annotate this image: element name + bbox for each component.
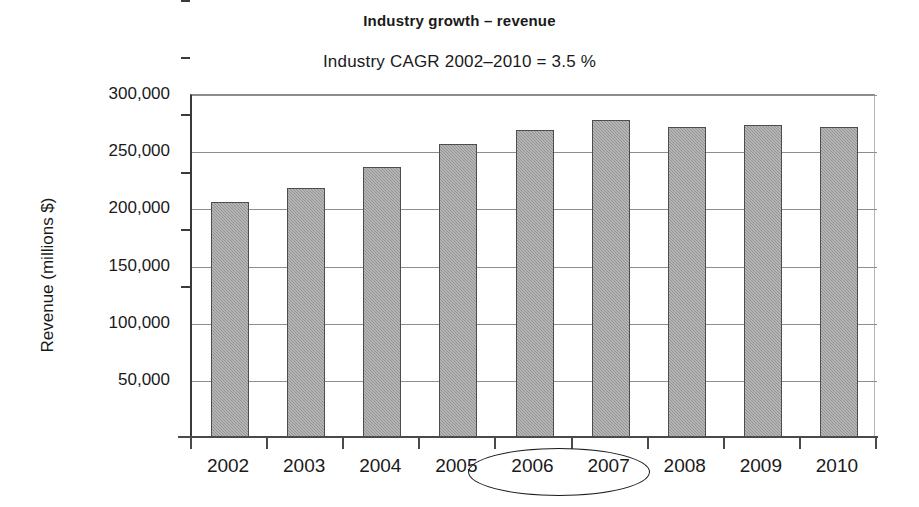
y-axis-label: 250,000 <box>50 142 170 159</box>
x-axis-tick <box>571 437 573 449</box>
chart-subtitle: Industry CAGR 2002–2010 = 3.5 % <box>0 52 919 72</box>
bar-2010 <box>820 127 858 438</box>
x-axis-tick <box>647 437 649 449</box>
y-axis-tick <box>181 172 190 174</box>
y-axis-label: 300,000 <box>50 85 170 102</box>
bar-2002 <box>211 202 249 438</box>
y-axis-label: 100,000 <box>50 314 170 331</box>
y-axis-label: 200,000 <box>50 199 170 216</box>
x-axis-tick <box>799 437 801 449</box>
highlight-ellipse-annotation <box>468 448 650 496</box>
y-axis-label: 50,000 <box>50 371 170 388</box>
bar-2006 <box>516 130 554 438</box>
gridline <box>192 95 877 96</box>
chart-title: Industry growth – revenue <box>0 12 919 29</box>
bar-2003 <box>287 188 325 438</box>
y-axis-tick <box>181 286 190 288</box>
bar-2008 <box>668 127 706 438</box>
x-axis-tick <box>723 437 725 449</box>
x-axis-tick <box>418 437 420 449</box>
chart-figure: Industry growth – revenue Industry CAGR … <box>0 0 919 507</box>
plot-area <box>190 94 875 437</box>
x-axis-tick <box>875 437 877 449</box>
y-axis-tick <box>181 229 190 231</box>
bar-2009 <box>744 125 782 438</box>
x-axis-label-2010: 2010 <box>792 455 882 477</box>
bar-2005 <box>439 144 477 438</box>
bar-2007 <box>592 120 630 438</box>
bar-2004 <box>363 167 401 438</box>
y-axis-tick <box>181 114 190 116</box>
x-axis-line <box>178 436 878 438</box>
y-axis-label: 150,000 <box>50 257 170 274</box>
x-axis-tick <box>190 437 192 449</box>
x-axis-tick <box>494 437 496 449</box>
y-axis-tick <box>181 57 190 59</box>
y-axis-tick <box>181 0 190 2</box>
x-axis-tick <box>342 437 344 449</box>
x-axis-tick <box>266 437 268 449</box>
